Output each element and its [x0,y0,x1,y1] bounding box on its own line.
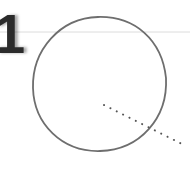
dotted-radius-line [104,105,186,146]
hand-drawn-circle [33,17,166,151]
step-number-label: 1 [0,4,23,64]
circle-sketch-drawing [0,0,190,172]
diagram-canvas: 1 [0,0,190,172]
